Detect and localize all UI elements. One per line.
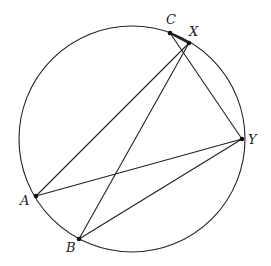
chords: [36, 33, 242, 239]
label-X: X: [188, 24, 199, 39]
point-X: [187, 41, 192, 46]
point-C: [168, 31, 173, 36]
point-B: [77, 237, 82, 242]
segment-BX: [79, 43, 189, 239]
segment-BY: [79, 139, 242, 239]
label-B: B: [65, 240, 76, 255]
circumcircle: [19, 26, 245, 252]
segment-AY: [36, 139, 242, 196]
points: [34, 31, 245, 242]
segment-AX: [36, 43, 189, 196]
point-Y: [240, 137, 245, 142]
point-A: [34, 194, 39, 199]
geometry-diagram: A B C X Y: [0, 0, 271, 266]
label-C: C: [166, 12, 176, 27]
label-A: A: [19, 193, 29, 208]
label-Y: Y: [248, 132, 258, 147]
